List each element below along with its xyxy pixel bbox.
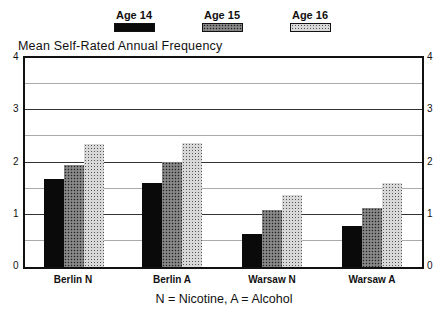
x-category-label: Berlin A — [127, 274, 217, 285]
chart-title: Mean Self-Rated Annual Frequency — [18, 39, 222, 53]
legend-item-age-15: Age 15 — [200, 9, 244, 32]
gridline-minor — [25, 83, 422, 84]
y-tick-label: 3 — [13, 104, 19, 114]
bar-berlin-a-age-15 — [162, 162, 182, 267]
y-tick-label: 4 — [427, 52, 433, 62]
legend-label: Age 14 — [112, 9, 156, 22]
bar-berlin-n-age-14 — [44, 179, 64, 267]
y-tick-label: 1 — [13, 209, 19, 219]
y-tick-label: 4 — [13, 52, 19, 62]
x-category-label: Berlin N — [28, 274, 118, 285]
plot-area — [23, 56, 424, 269]
y-tick-label: 1 — [427, 209, 433, 219]
legend-label: Age 16 — [288, 9, 332, 22]
y-tick-label: 0 — [427, 261, 433, 271]
x-category-label: Warsaw N — [227, 274, 317, 285]
gridline-major — [25, 109, 422, 110]
bar-warsaw-n-age-16 — [282, 195, 302, 267]
legend-swatch-light — [290, 23, 331, 32]
legend-swatch-solid — [114, 23, 155, 32]
legend-item-age-14: Age 14 — [112, 9, 156, 32]
bar-warsaw-a-age-16 — [382, 183, 402, 267]
bar-berlin-n-age-15 — [64, 165, 84, 267]
legend-label: Age 15 — [200, 9, 244, 22]
y-tick-label: 2 — [13, 157, 19, 167]
y-tick-label: 3 — [427, 104, 433, 114]
bar-berlin-a-age-14 — [142, 183, 162, 267]
bar-berlin-a-age-16 — [182, 143, 202, 267]
legend-item-age-16: Age 16 — [288, 9, 332, 32]
bar-warsaw-a-age-14 — [342, 226, 362, 267]
x-category-label: Warsaw A — [327, 274, 417, 285]
bar-warsaw-a-age-15 — [362, 208, 382, 267]
gridline-minor — [25, 135, 422, 136]
footnote: N = Nicotine, A = Alcohol — [0, 292, 444, 306]
bar-warsaw-n-age-15 — [262, 210, 282, 267]
bar-warsaw-n-age-14 — [242, 234, 262, 267]
y-tick-label: 0 — [13, 261, 19, 271]
y-tick-label: 2 — [427, 157, 433, 167]
legend-swatch-dense — [202, 23, 243, 32]
bar-berlin-n-age-16 — [84, 144, 104, 267]
